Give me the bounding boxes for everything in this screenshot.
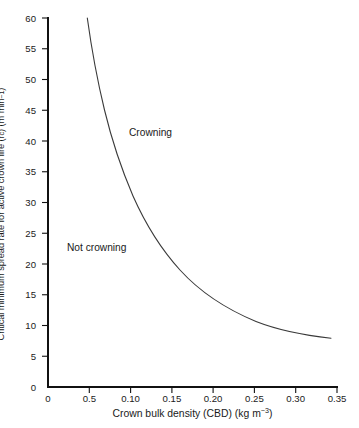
y-tick-label: 10 [10,321,36,331]
x-tick-label: 0.10 [108,394,154,404]
annotation-not-crowning: Not crowning [67,242,126,253]
y-axis-title-superscript: −1 [0,91,6,99]
x-axis-title-superscript: −3 [261,406,269,415]
x-tick-label: 0.30 [273,394,319,404]
y-tick-label: 30 [10,198,36,208]
y-tick-label: 45 [10,106,36,116]
x-tick-label: 0 [25,394,71,404]
y-tick-label: 50 [10,75,36,85]
y-tick-label: 25 [10,229,36,239]
y-tick-label: 60 [10,14,36,24]
y-tick-label: 5 [10,352,36,362]
y-axis-title-mid: ) (m min [0,99,6,132]
y-axis-title-main: Critical minimum spread rate for active … [0,135,6,340]
x-axis-title: Crown bulk density (CBD) (kg m−3) [48,406,337,419]
y-tick-label: 15 [10,290,36,300]
y-tick-label: 0 [10,383,36,393]
chart-figure: Critical minimum spread rate for active … [0,0,359,428]
y-tick-label: 40 [10,137,36,147]
y-axis-title: Critical minimum spread rate for active … [0,0,20,428]
x-axis-title-end: ) [269,408,272,419]
y-tick-label: 35 [10,167,36,177]
x-tick-label: 0.35 [314,394,359,404]
y-tick-label: 55 [10,44,36,54]
x-axis-title-main: Crown bulk density (CBD) (kg m [112,408,260,419]
x-tick-label: 0.5 [66,394,112,404]
annotation-crowning: Crowning [129,127,172,138]
x-tick-label: 0.25 [231,394,277,404]
x-tick-label: 0.20 [190,394,236,404]
x-tick-label: 0.15 [149,394,195,404]
y-axis-title-end: ) [0,88,6,91]
y-axis-title-subscript: c [0,132,6,136]
threshold-curve [87,18,331,338]
plot-area [0,0,359,428]
y-tick-label: 20 [10,260,36,270]
